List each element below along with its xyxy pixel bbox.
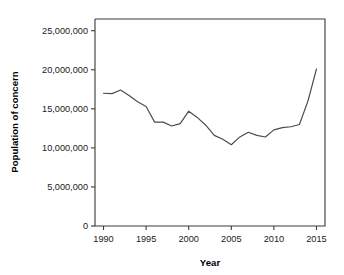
x-tick-label: 1995: [136, 234, 156, 244]
y-axis-ticks: 05,000,00010,000,00015,000,00020,000,000…: [42, 26, 95, 231]
chart-figure: 05,000,00010,000,00015,000,00020,000,000…: [0, 0, 344, 275]
y-tick-label: 0: [83, 221, 88, 231]
x-tick-label: 1990: [93, 234, 113, 244]
line-chart: 05,000,00010,000,00015,000,00020,000,000…: [0, 0, 344, 275]
y-axis-title: Population of concern: [9, 71, 20, 172]
y-tick-label: 20,000,000: [42, 65, 88, 75]
y-tick-label: 5,000,000: [47, 182, 88, 192]
x-tick-label: 2015: [306, 234, 326, 244]
x-tick-label: 2005: [221, 234, 241, 244]
series-group: [104, 69, 317, 145]
plot-frame: [95, 19, 325, 226]
x-axis-ticks: 199019952000200520102015: [93, 226, 326, 244]
y-tick-label: 25,000,000: [42, 26, 88, 36]
x-axis-title: Year: [200, 257, 221, 268]
y-tick-label: 15,000,000: [42, 104, 88, 114]
x-tick-label: 2010: [264, 234, 284, 244]
y-tick-label: 10,000,000: [42, 143, 88, 153]
x-tick-label: 2000: [178, 234, 198, 244]
data-line-population-of-concern: [104, 69, 317, 145]
